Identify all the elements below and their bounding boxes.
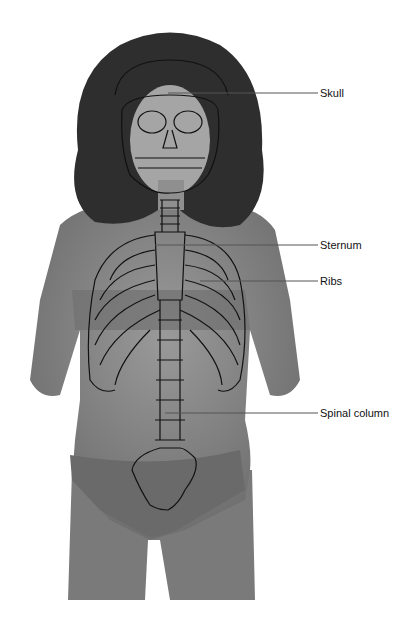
- torso: [30, 200, 300, 540]
- label-skull: Skull: [320, 87, 344, 99]
- anatomy-figure: [0, 0, 418, 641]
- label-ribs: Ribs: [320, 275, 342, 287]
- label-sternum: Sternum: [320, 239, 362, 251]
- label-spinal-column: Spinal column: [320, 407, 389, 419]
